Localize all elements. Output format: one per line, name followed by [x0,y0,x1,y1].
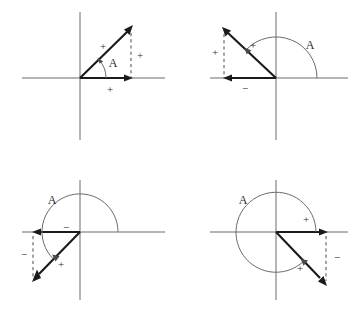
panel-quadrant-3: A − − + [21,180,165,300]
panel-quadrant-2: A + + − [210,12,348,140]
sign-vector-resultant: + [297,262,303,274]
resultant-vector-line [80,31,128,78]
x-component-arrowhead [32,229,41,236]
panel-quadrant-4: A + + − [210,180,348,300]
angle-label: A [306,38,315,52]
vector-quadrant-figure: A + + + A + + − [0,0,357,317]
sign-y-component: − [21,248,27,260]
angle-label: A [48,193,57,207]
sign-vector-resultant: + [250,39,256,51]
sign-vector-resultant: + [58,258,64,270]
sign-x-component: − [63,221,69,233]
x-component-arrowhead [319,229,328,236]
sign-y-component: + [212,46,218,58]
sign-vector-resultant: + [100,40,106,52]
panel-quadrant-1: A + + + [22,12,165,140]
sign-y-component: − [334,251,340,263]
sign-x-component: − [242,82,248,94]
sign-x-component: + [303,213,309,225]
sign-x-component: + [107,83,113,95]
angle-label: A [239,193,248,207]
angle-label: A [109,56,118,70]
quadrant-diagram-canvas: A + + + A + + − [0,0,357,317]
sign-y-component: + [137,49,143,61]
x-component-arrowhead [124,75,133,82]
